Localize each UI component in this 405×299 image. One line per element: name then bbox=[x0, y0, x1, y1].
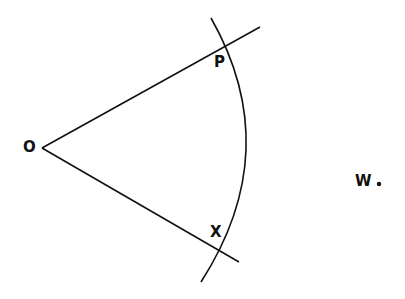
point-w-dot bbox=[377, 182, 381, 186]
diagram-svg bbox=[0, 0, 405, 299]
label-x: X bbox=[210, 225, 222, 240]
label-p: P bbox=[214, 55, 225, 70]
ray-op bbox=[42, 27, 260, 148]
ray-ox bbox=[42, 148, 239, 262]
diagram-canvas: O P X W bbox=[0, 0, 405, 299]
label-w: W bbox=[355, 174, 372, 189]
label-o: O bbox=[23, 140, 36, 155]
